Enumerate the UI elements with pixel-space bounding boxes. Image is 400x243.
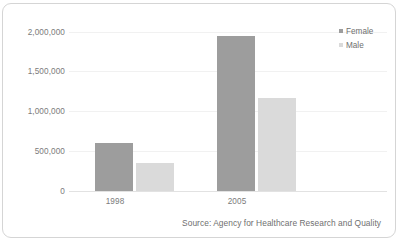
x-axis-label-2005: 2005 bbox=[212, 197, 262, 206]
bar-1998-female[interactable] bbox=[95, 143, 133, 191]
legend-label-female: Female bbox=[346, 27, 373, 36]
legend-item-male[interactable]: Male bbox=[339, 39, 373, 51]
bar-2005-female[interactable] bbox=[217, 36, 255, 191]
bars-layer bbox=[3, 4, 397, 191]
legend-item-female[interactable]: Female bbox=[339, 25, 373, 37]
chart-figure: 2,000,000 1,500,000 1,000,000 500,000 0 … bbox=[2, 3, 396, 238]
source-note: Source: Agency for Healthcare Research a… bbox=[182, 218, 381, 228]
chart-legend: Female Male bbox=[339, 25, 373, 53]
legend-label-male: Male bbox=[346, 41, 364, 50]
legend-swatch-male-icon bbox=[339, 43, 343, 47]
legend-swatch-female-icon bbox=[339, 29, 343, 33]
bar-1998-male[interactable] bbox=[136, 163, 174, 191]
x-axis-label-1998: 1998 bbox=[90, 197, 140, 206]
gridline-zero-baseline bbox=[69, 191, 387, 192]
bar-2005-male[interactable] bbox=[258, 98, 296, 191]
chart-plot-area: 2,000,000 1,500,000 1,000,000 500,000 0 … bbox=[3, 4, 397, 239]
